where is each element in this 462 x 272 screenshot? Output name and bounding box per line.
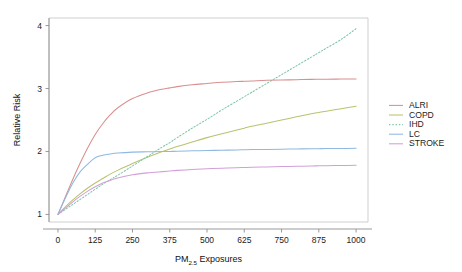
legend-label-stroke: STROKE bbox=[409, 138, 445, 148]
x-tick-label: 375 bbox=[163, 235, 177, 245]
y-tick-label: 1 bbox=[37, 209, 42, 219]
legend-label-lc: LC bbox=[409, 129, 420, 139]
x-tick-label: 0 bbox=[56, 235, 61, 245]
chart-background bbox=[0, 0, 462, 272]
legend-label-alri: ALRI bbox=[409, 100, 428, 110]
x-tick-label: 625 bbox=[237, 235, 251, 245]
x-tick-label: 125 bbox=[88, 235, 102, 245]
x-tick-label: 1000 bbox=[347, 235, 366, 245]
x-axis-title-tail: Exposures bbox=[197, 254, 243, 264]
y-axis-title: Relative Risk bbox=[12, 93, 22, 146]
chart-figure: 123401252503755006257508751000 Relative … bbox=[0, 0, 462, 272]
chart-svg: 123401252503755006257508751000 Relative … bbox=[0, 0, 462, 272]
y-tick-label: 2 bbox=[37, 146, 42, 156]
x-tick-label: 500 bbox=[200, 235, 214, 245]
y-tick-label: 3 bbox=[37, 84, 42, 94]
x-axis-title: PM2.5 Exposures bbox=[175, 254, 243, 266]
legend-label-ihd: IHD bbox=[409, 119, 424, 129]
x-tick-label: 875 bbox=[312, 235, 326, 245]
x-tick-label: 750 bbox=[274, 235, 288, 245]
x-tick-label: 250 bbox=[125, 235, 139, 245]
x-axis-title-main: PM bbox=[175, 254, 189, 264]
legend-label-copd: COPD bbox=[409, 110, 434, 120]
y-tick-label: 4 bbox=[37, 21, 42, 31]
